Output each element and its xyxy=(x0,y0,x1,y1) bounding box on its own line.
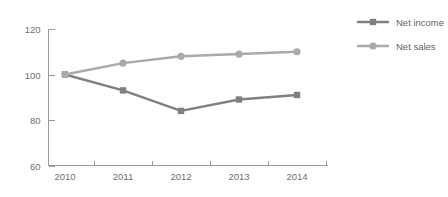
y-axis-tick-labels: 6080100120 xyxy=(25,24,41,172)
legend-swatch-marker xyxy=(369,42,376,49)
y-tick-label: 100 xyxy=(25,70,41,81)
y-axis-ticks xyxy=(49,30,55,167)
data-point-marker xyxy=(178,108,184,114)
legend-label: Net income xyxy=(396,17,444,28)
series-line xyxy=(65,75,297,111)
x-tick-label: 2013 xyxy=(228,171,249,182)
data-point-marker xyxy=(119,60,126,67)
line-chart: 6080100120 20102011201220132014 Net inco… xyxy=(0,0,448,197)
y-tick-label: 60 xyxy=(30,161,41,172)
x-axis: 20102011201220132014 xyxy=(49,161,329,182)
x-tick-label: 2011 xyxy=(113,171,133,182)
chart-canvas: 6080100120 20102011201220132014 Net inco… xyxy=(0,0,448,197)
chart-legend: Net incomeNet sales xyxy=(358,17,444,52)
y-tick-label: 120 xyxy=(25,24,41,35)
data-point-marker xyxy=(293,48,300,55)
x-axis-tick-labels: 20102011201220132014 xyxy=(54,171,307,182)
data-point-marker xyxy=(177,53,184,60)
series-net-sales xyxy=(61,48,300,78)
x-axis-ticks xyxy=(95,161,327,166)
x-tick-label: 2014 xyxy=(286,171,307,182)
data-point-marker xyxy=(235,50,242,57)
x-tick-label: 2012 xyxy=(170,171,191,182)
y-axis: 6080100120 xyxy=(25,24,55,172)
legend-item-net-sales[interactable]: Net sales xyxy=(358,41,436,52)
y-tick-label: 80 xyxy=(30,115,41,126)
x-tick-label: 2010 xyxy=(54,171,75,182)
plot-series xyxy=(61,48,300,114)
data-point-marker xyxy=(61,71,68,78)
data-point-marker xyxy=(294,92,300,98)
legend-item-net-income[interactable]: Net income xyxy=(358,17,444,28)
legend-swatch-marker xyxy=(370,19,376,25)
series-net-income xyxy=(62,71,300,114)
data-point-marker xyxy=(120,87,126,93)
data-point-marker xyxy=(236,96,242,102)
legend-label: Net sales xyxy=(396,41,436,52)
